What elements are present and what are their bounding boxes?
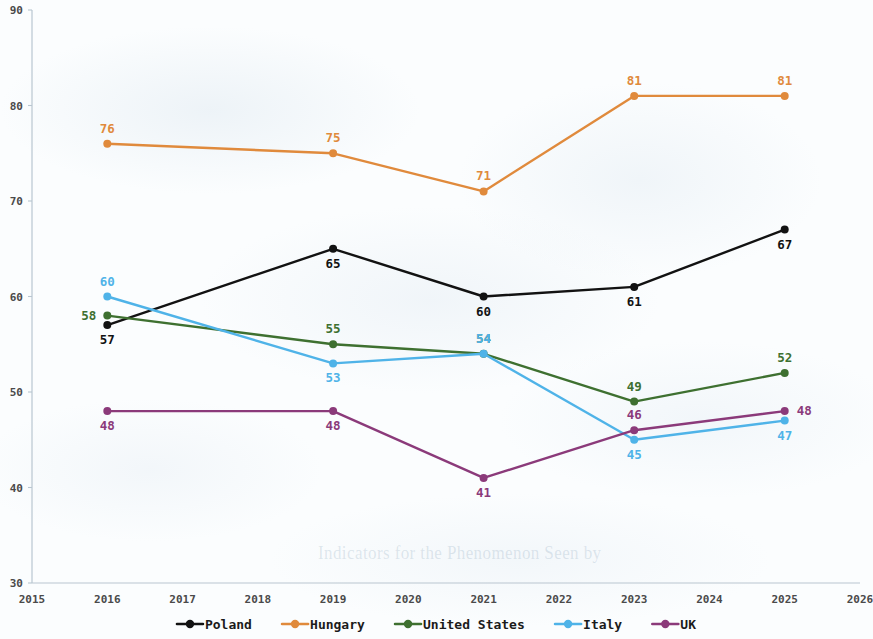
x-tick-label: 2022 xyxy=(546,593,573,606)
data-point-label: 60 xyxy=(476,304,491,319)
y-axis-tick-labels: 30405060708090 xyxy=(10,4,32,590)
data-point-label: 61 xyxy=(627,294,642,309)
data-point-marker xyxy=(103,140,111,148)
data-point-marker xyxy=(781,407,789,415)
legend-label: UK xyxy=(680,617,696,632)
data-point-marker xyxy=(630,436,638,444)
data-point-label: 52 xyxy=(777,350,792,365)
data-point-label: 41 xyxy=(476,485,491,500)
data-point-marker xyxy=(781,417,789,425)
x-tick-label: 2018 xyxy=(245,593,272,606)
data-point-label: 58 xyxy=(81,308,96,323)
data-point-label: 48 xyxy=(326,418,341,433)
legend-marker-icon xyxy=(564,620,572,628)
x-tick-label: 2017 xyxy=(169,593,196,606)
series-layer xyxy=(103,92,788,482)
legend-item-hungary[interactable]: Hungary xyxy=(282,617,365,632)
data-point-label: 81 xyxy=(777,73,792,88)
legend-label: Italy xyxy=(583,617,622,632)
legend-item-poland[interactable]: Poland xyxy=(177,617,252,632)
data-point-label: 65 xyxy=(326,256,341,271)
x-tick-label: 2015 xyxy=(19,593,46,606)
x-tick-label: 2021 xyxy=(470,593,497,606)
data-point-marker xyxy=(630,92,638,100)
data-point-marker xyxy=(781,369,789,377)
data-point-label: 60 xyxy=(100,274,115,289)
data-point-marker xyxy=(103,312,111,320)
chart-page: Indicators for the Phenomenon Seen by 30… xyxy=(0,0,873,639)
data-point-label: 53 xyxy=(326,370,341,385)
legend-marker-icon xyxy=(661,620,669,628)
data-point-label: 48 xyxy=(100,418,115,433)
legend-item-italy[interactable]: Italy xyxy=(555,617,622,632)
data-point-marker xyxy=(630,398,638,406)
y-tick-label: 80 xyxy=(10,100,23,113)
y-tick-label: 70 xyxy=(10,195,23,208)
data-point-marker xyxy=(480,187,488,195)
legend-marker-icon xyxy=(186,620,194,628)
data-point-label: 71 xyxy=(476,168,491,183)
data-point-label: 55 xyxy=(326,321,341,336)
data-label-layer: 5765606167767571818158555449526053544547… xyxy=(81,73,812,500)
data-point-marker xyxy=(103,321,111,329)
data-point-label: 49 xyxy=(627,379,642,394)
x-tick-label: 2019 xyxy=(320,593,347,606)
data-point-marker xyxy=(329,407,337,415)
legend-label: Poland xyxy=(205,617,252,632)
data-point-marker xyxy=(480,474,488,482)
x-tick-label: 2026 xyxy=(847,593,873,606)
data-point-label: 67 xyxy=(777,237,792,252)
x-axis-tick-labels: 2015201620172018201920202021202220232024… xyxy=(19,593,873,606)
x-tick-label: 2025 xyxy=(771,593,798,606)
data-point-label: 45 xyxy=(627,447,642,462)
data-point-marker xyxy=(329,359,337,367)
data-point-marker xyxy=(103,407,111,415)
x-tick-label: 2016 xyxy=(94,593,121,606)
y-tick-label: 60 xyxy=(10,291,23,304)
series-uk xyxy=(103,407,788,482)
legend-item-uk[interactable]: UK xyxy=(652,617,696,632)
data-point-marker xyxy=(329,245,337,253)
legend-label: Hungary xyxy=(310,617,365,632)
data-point-marker xyxy=(630,426,638,434)
chart-legend: PolandHungaryUnited StatesItalyUK xyxy=(177,617,696,632)
series-hungary xyxy=(103,92,788,195)
line-chart: 30405060708090 2015201620172018201920202… xyxy=(0,0,873,639)
data-point-label: 76 xyxy=(100,121,115,136)
data-point-marker xyxy=(480,350,488,358)
legend-marker-icon xyxy=(404,620,412,628)
data-point-label: 75 xyxy=(326,130,341,145)
data-point-label: 47 xyxy=(777,428,792,443)
legend-marker-icon xyxy=(291,620,299,628)
series-italy xyxy=(103,293,788,444)
data-point-marker xyxy=(480,293,488,301)
data-point-marker xyxy=(781,226,789,234)
legend-label: United States xyxy=(423,617,525,632)
data-point-marker xyxy=(103,293,111,301)
data-point-label: 54 xyxy=(476,331,491,346)
data-point-marker xyxy=(329,340,337,348)
legend-item-united-states[interactable]: United States xyxy=(395,617,525,632)
data-point-label: 81 xyxy=(627,73,642,88)
x-tick-label: 2020 xyxy=(395,593,422,606)
data-point-marker xyxy=(781,92,789,100)
y-tick-label: 90 xyxy=(10,4,23,17)
x-tick-label: 2024 xyxy=(696,593,723,606)
y-tick-label: 30 xyxy=(10,577,23,590)
data-point-marker xyxy=(329,149,337,157)
data-point-label: 46 xyxy=(627,407,642,422)
x-tick-label: 2023 xyxy=(621,593,648,606)
data-point-marker xyxy=(630,283,638,291)
data-point-label: 48 xyxy=(797,403,812,418)
data-point-label: 57 xyxy=(100,332,115,347)
y-tick-label: 50 xyxy=(10,386,23,399)
y-tick-label: 40 xyxy=(10,482,23,495)
series-poland xyxy=(103,226,788,330)
